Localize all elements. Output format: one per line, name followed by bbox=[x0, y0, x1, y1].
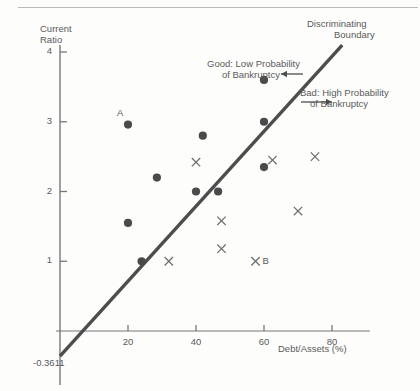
y-tick-label: 1 bbox=[34, 255, 52, 266]
data-point-dot bbox=[260, 118, 268, 126]
data-point-cross bbox=[251, 257, 259, 265]
x-tick-label: 80 bbox=[323, 337, 341, 348]
x-tick-label: 60 bbox=[255, 337, 273, 348]
data-point-cross bbox=[192, 158, 200, 166]
data-point-cross bbox=[268, 156, 276, 164]
y-intercept-label: -0.3611 bbox=[33, 358, 65, 369]
chart-figure: Current Ratio Debt/Assets (%) -0.3611 Go… bbox=[0, 0, 420, 391]
data-point-dot bbox=[124, 219, 132, 227]
data-point-label: A bbox=[117, 108, 123, 119]
data-point-dot bbox=[153, 173, 161, 181]
annotation-good-line2: of Bankruptcy bbox=[185, 70, 280, 81]
data-point-cross bbox=[311, 152, 319, 160]
y-tick-label: 4 bbox=[34, 46, 52, 57]
x-tick-label: 20 bbox=[119, 337, 137, 348]
data-point-dot bbox=[260, 163, 268, 171]
data-point-dot bbox=[192, 187, 200, 195]
data-point-label: B bbox=[263, 256, 269, 267]
data-point-cross bbox=[165, 257, 173, 265]
data-point-dot bbox=[199, 132, 207, 140]
annotation-bad-line2: of Bankruptcy bbox=[310, 99, 368, 110]
data-point-dot bbox=[124, 120, 132, 128]
data-point-dot bbox=[214, 187, 222, 195]
y-tick-label: 2 bbox=[34, 186, 52, 197]
data-point-cross bbox=[217, 244, 225, 252]
data-point-cross bbox=[217, 217, 225, 225]
y-tick-label: 3 bbox=[34, 116, 52, 127]
annotation-good-arrow bbox=[281, 71, 303, 77]
boundary-label-line2: Boundary bbox=[334, 30, 375, 41]
data-point-dot bbox=[138, 257, 146, 265]
data-point-cross bbox=[294, 207, 302, 215]
x-tick-label: 40 bbox=[187, 337, 205, 348]
